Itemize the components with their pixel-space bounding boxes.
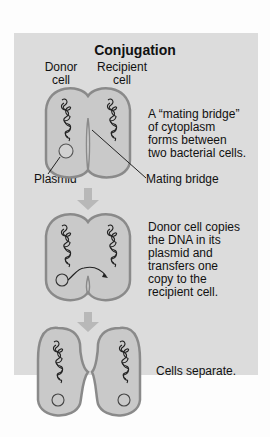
step-1-cells	[46, 88, 146, 178]
step-2-cells	[46, 214, 130, 300]
down-arrow-icon	[77, 312, 99, 332]
down-arrow-icon	[77, 188, 99, 210]
plasmid	[59, 144, 73, 158]
conjugation-illustration	[0, 0, 270, 437]
step-3-cells	[38, 328, 140, 416]
